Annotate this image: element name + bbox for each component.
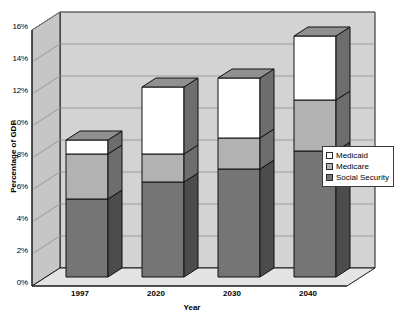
plot-area: 0% 2% 4% 6% 8% 10% 12% 14% 16% 1997 2020… — [0, 0, 409, 321]
legend-label-medicaid: Medicaid — [336, 150, 368, 161]
bar-segment-social-security-2030 — [218, 169, 260, 277]
x-tick-label-2030: 2030 — [207, 289, 257, 298]
x-axis-title: Year — [162, 303, 222, 312]
legend-item-medicare[interactable]: Medicare — [326, 161, 389, 172]
legend-swatch-medicare — [326, 163, 333, 170]
bar-segment-medicaid-2020 — [142, 87, 184, 154]
bar-segment-medicare-2040 — [294, 100, 336, 151]
legend-label-medicare: Medicare — [336, 161, 369, 172]
bar-segment-social-security-1997-side — [108, 190, 122, 277]
chart-legend: Medicaid Medicare Social Security — [322, 146, 394, 187]
bar-segment-medicaid-2030-side — [260, 69, 274, 138]
y-tick-label-2: 2% — [2, 246, 28, 255]
bar-segment-medicaid-2040-side — [336, 27, 350, 100]
y-axis-title: Percentage of GDP — [9, 112, 18, 202]
bar-segment-medicaid-2030 — [218, 78, 260, 138]
bar-segment-medicare-1997 — [66, 154, 108, 199]
y-tick-label-14: 14% — [2, 54, 28, 63]
bar-segment-social-security-2020-side — [184, 173, 198, 277]
bar-group-2020 — [142, 78, 198, 277]
x-tick-label-1997: 1997 — [55, 289, 105, 298]
bar-segment-social-security-1997 — [66, 199, 108, 277]
y-tick-label-16: 16% — [2, 22, 28, 31]
x-tick-label-2040: 2040 — [283, 289, 333, 298]
bar-segment-medicare-2020 — [142, 154, 184, 182]
bar-segment-social-security-2020 — [142, 182, 184, 277]
x-tick-label-2020: 2020 — [131, 289, 181, 298]
bar-group-2030 — [218, 69, 274, 277]
chart-root: 0% 2% 4% 6% 8% 10% 12% 14% 16% 1997 2020… — [0, 0, 409, 321]
bar-group-1997 — [66, 131, 122, 277]
legend-item-social-security[interactable]: Social Security — [326, 172, 389, 183]
legend-swatch-medicaid — [326, 152, 333, 159]
y-tick-label-4: 4% — [2, 214, 28, 223]
legend-swatch-social-security — [326, 174, 333, 181]
y-tick-label-12: 12% — [2, 86, 28, 95]
legend-label-social-security: Social Security — [336, 172, 389, 183]
bar-segment-social-security-2030-side — [260, 160, 274, 277]
legend-item-medicaid[interactable]: Medicaid — [326, 150, 389, 161]
bar-segment-medicaid-2040 — [294, 36, 336, 100]
bar-segment-medicare-2030 — [218, 138, 260, 169]
bar-segment-medicaid-2020-side — [184, 78, 198, 154]
bar-segment-medicare-2040-side — [336, 91, 350, 151]
bar-segment-medicaid-1997 — [66, 140, 108, 154]
y-tick-label-0: 0% — [2, 278, 28, 287]
